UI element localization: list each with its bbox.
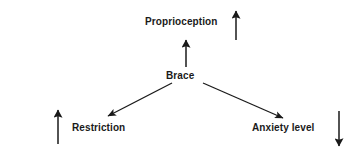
node-label-anxiety-level: Anxiety level	[252, 123, 314, 133]
connector-brace-to-restriction	[108, 83, 172, 116]
connector-brace-to-anxiety	[203, 83, 283, 118]
diagram-canvas: Proprioception Brace Restriction Anxiety…	[0, 0, 358, 154]
node-label-proprioception: Proprioception	[145, 17, 218, 27]
node-label-brace: Brace	[166, 71, 194, 81]
node-label-restriction: Restriction	[72, 123, 125, 133]
